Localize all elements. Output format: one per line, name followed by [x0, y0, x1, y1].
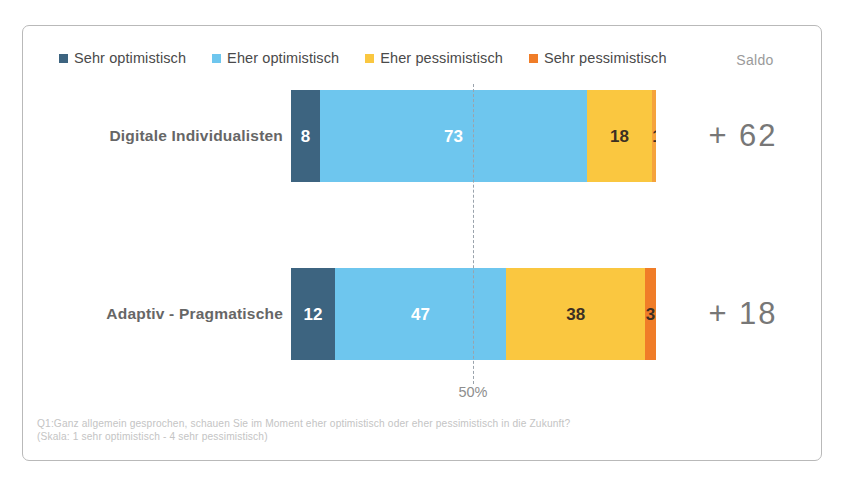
legend-item-label: Sehr pessimistisch: [544, 50, 667, 66]
bar-row-adaptiv-pragmatische: Adaptiv - Pragmatische 12 47 38 3 + 18: [23, 268, 821, 360]
segment-value: 73: [444, 128, 463, 145]
legend-item-sehr-pessimistisch[interactable]: Sehr pessimistisch: [529, 50, 667, 66]
legend-item-eher-pessimistisch[interactable]: Eher pessimistisch: [365, 50, 503, 66]
segment-value: 12: [303, 306, 322, 323]
segment-value: 38: [566, 306, 585, 323]
legend-item-label: Eher optimistisch: [227, 50, 339, 66]
bar-segment-eher-pessimistisch[interactable]: 38: [506, 268, 645, 360]
saldo-column-header: Saldo: [695, 52, 815, 68]
chart-legend: Sehr optimistisch Eher optimistisch Eher…: [59, 50, 667, 66]
row-label: Digitale Individualisten: [33, 127, 283, 145]
legend-item-eher-optimistisch[interactable]: Eher optimistisch: [212, 50, 339, 66]
segment-value: 18: [610, 128, 629, 145]
bar-segment-sehr-pessimistisch[interactable]: 1: [652, 90, 656, 182]
reference-line-50-percent: [473, 84, 474, 384]
segment-value: 3: [646, 306, 655, 323]
bar-segment-eher-optimistisch[interactable]: 47: [335, 268, 507, 360]
bar-segment-sehr-optimistisch[interactable]: 12: [291, 268, 335, 360]
legend-item-sehr-optimistisch[interactable]: Sehr optimistisch: [59, 50, 186, 66]
legend-item-label: Eher pessimistisch: [380, 50, 503, 66]
segment-value: 47: [411, 306, 430, 323]
segment-value: 8: [301, 128, 310, 145]
bar-segment-eher-optimistisch[interactable]: 73: [320, 90, 586, 182]
footnote-line-1: Q1:Ganz allgemein gesprochen, schauen Si…: [37, 418, 807, 431]
square-swatch-icon: [529, 54, 538, 63]
footnote: Q1:Ganz allgemein gesprochen, schauen Si…: [37, 418, 807, 443]
square-swatch-icon: [212, 54, 221, 63]
saldo-value: + 18: [673, 296, 813, 332]
chart-slide: Sehr optimistisch Eher optimistisch Eher…: [22, 25, 822, 461]
segment-value: 1: [652, 128, 656, 145]
saldo-value: + 62: [673, 118, 813, 154]
square-swatch-icon: [365, 54, 374, 63]
bar-segment-sehr-optimistisch[interactable]: 8: [291, 90, 320, 182]
reference-line-label: 50%: [423, 384, 523, 400]
legend-item-label: Sehr optimistisch: [74, 50, 186, 66]
bar-row-digitale-individualisten: Digitale Individualisten 8 73 18 1 + 62: [23, 90, 821, 182]
square-swatch-icon: [59, 54, 68, 63]
row-label: Adaptiv - Pragmatische: [33, 305, 283, 323]
bar-segment-sehr-pessimistisch[interactable]: 3: [645, 268, 656, 360]
footnote-line-2: (Skala: 1 sehr optimistisch - 4 sehr pes…: [37, 431, 807, 444]
bar-segment-eher-pessimistisch[interactable]: 18: [587, 90, 653, 182]
plot-area: Digitale Individualisten 8 73 18 1 + 62 …: [23, 82, 821, 382]
